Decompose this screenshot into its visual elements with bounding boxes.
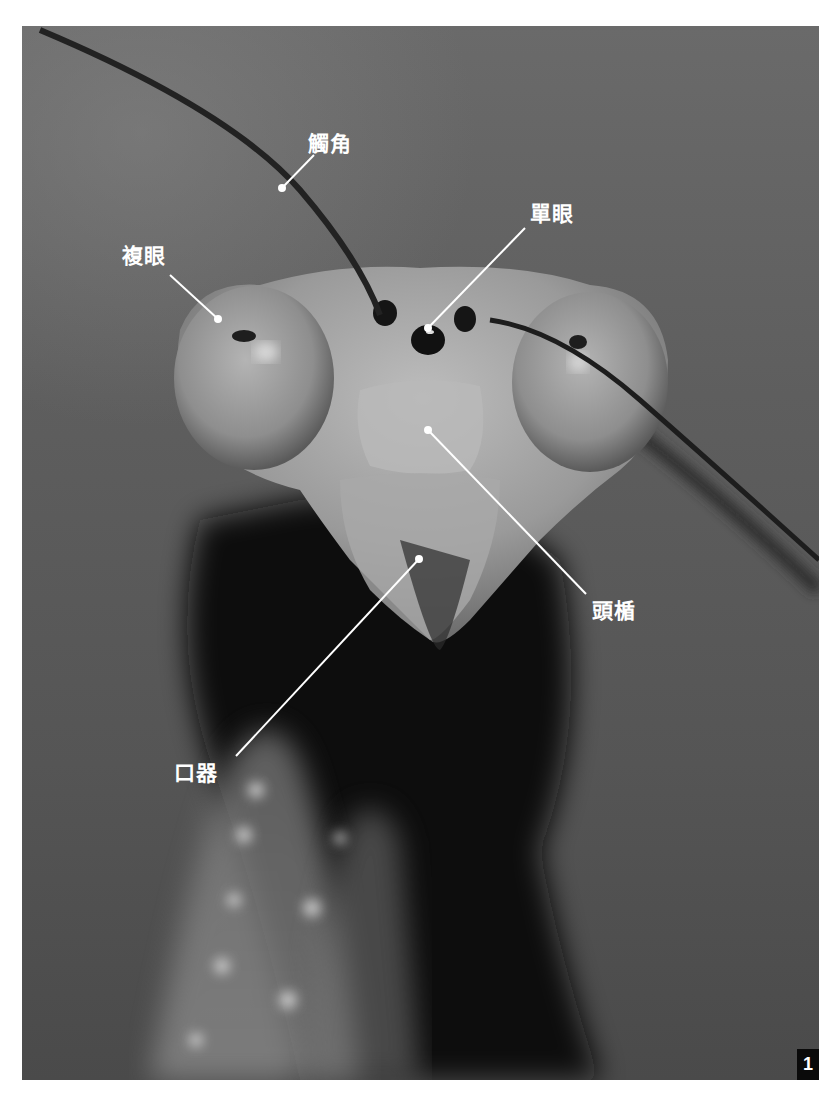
leader-lines [22,26,819,1080]
label-antenna: 觸角 [308,134,352,155]
mantis-photo [22,26,819,1080]
figure-number-badge: 1 [797,1049,819,1080]
compound-eye-leader-dot [215,316,221,322]
label-clypeus: 頭楯 [592,601,636,622]
mouthparts-leader-line [236,559,419,756]
ocellus-leader-line [428,228,525,328]
mouthparts-leader-dot [416,556,422,562]
label-mouthparts: 口器 [174,763,218,784]
label-ocellus: 單眼 [530,204,574,225]
antenna-leader-dot [279,185,285,191]
ocellus-leader-dot [425,325,431,331]
antenna-leader-line [282,155,314,188]
label-compound-eye: 複眼 [122,246,166,267]
clypeus-leader-line [428,430,586,594]
compound-eye-leader-line [170,275,218,319]
clypeus-leader-dot [425,427,431,433]
